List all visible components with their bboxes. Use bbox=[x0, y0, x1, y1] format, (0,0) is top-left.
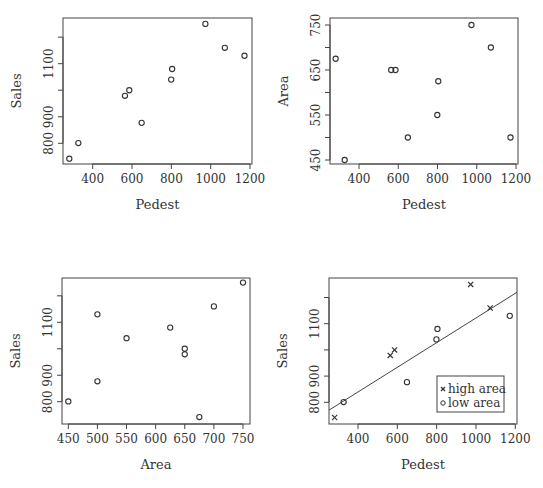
y-tick-label: 800 bbox=[42, 132, 56, 155]
data-point-circle bbox=[124, 336, 129, 341]
x-tick-label: 1200 bbox=[500, 432, 531, 446]
x-tick-label: 700 bbox=[202, 432, 225, 446]
data-point-circle bbox=[122, 93, 127, 98]
y-tick-label: 900 bbox=[42, 105, 56, 128]
panel-top-right: 40060080010001200450550650750PedestArea bbox=[276, 14, 531, 212]
data-point-circle bbox=[222, 45, 227, 50]
data-point-cross bbox=[468, 282, 473, 287]
data-point-circle bbox=[342, 157, 347, 162]
y-tick-label: 550 bbox=[309, 104, 323, 127]
y-axis-label: Sales bbox=[8, 333, 23, 368]
data-point-circle bbox=[240, 280, 245, 285]
data-point-circle bbox=[435, 112, 440, 117]
x-axis-label: Area bbox=[139, 457, 171, 472]
y-axis-label: Sales bbox=[9, 73, 24, 108]
data-point-circle bbox=[127, 88, 132, 93]
x-tick-label: 600 bbox=[387, 172, 410, 186]
data-point-circle bbox=[469, 22, 474, 27]
data-point-circle bbox=[139, 120, 144, 125]
data-point-circle bbox=[197, 414, 202, 419]
x-tick-label: 400 bbox=[347, 432, 370, 446]
y-tick-label: 800 bbox=[308, 391, 322, 414]
data-point-circle bbox=[508, 135, 513, 140]
x-tick-label: 800 bbox=[425, 432, 448, 446]
x-tick-label: 750 bbox=[232, 432, 255, 446]
data-point-circle bbox=[507, 313, 512, 318]
panel-top-left: 400600800100012008009001100PedestSales bbox=[9, 18, 265, 212]
data-point-circle bbox=[435, 326, 440, 331]
x-axis-label: Pedest bbox=[401, 457, 446, 472]
data-point-circle bbox=[203, 21, 208, 26]
y-axis-label: Sales bbox=[275, 333, 290, 368]
data-point-circle bbox=[182, 346, 187, 351]
x-axis-label: Pedest bbox=[402, 197, 447, 212]
panel-bottom-right: 400600800100012008009001100PedestSaleshi… bbox=[275, 278, 531, 472]
x-tick-label: 650 bbox=[173, 432, 196, 446]
x-tick-label: 400 bbox=[81, 172, 104, 186]
y-tick-label: 900 bbox=[41, 364, 55, 387]
data-point-circle bbox=[333, 56, 338, 61]
legend-high-area: high area bbox=[448, 382, 506, 396]
data-point-circle bbox=[242, 53, 247, 58]
data-point-circle bbox=[168, 325, 173, 330]
data-point-circle bbox=[76, 140, 81, 145]
plot-frame bbox=[330, 18, 518, 164]
x-tick-label: 600 bbox=[144, 432, 167, 446]
plot-frame bbox=[63, 18, 252, 164]
data-point-cross bbox=[388, 353, 393, 358]
x-tick-label: 800 bbox=[160, 172, 183, 186]
y-tick-label: 900 bbox=[308, 365, 322, 388]
x-tick-label: 500 bbox=[86, 432, 109, 446]
y-axis-label: Area bbox=[276, 75, 291, 107]
legend: high arealow area bbox=[437, 376, 506, 412]
y-tick-label: 1100 bbox=[41, 307, 55, 338]
data-point-cross bbox=[332, 415, 337, 420]
data-point-circle bbox=[95, 379, 100, 384]
x-tick-label: 1200 bbox=[501, 172, 532, 186]
data-point-circle bbox=[405, 135, 410, 140]
x-tick-label: 400 bbox=[348, 172, 371, 186]
plot-frame bbox=[62, 278, 250, 424]
data-point-circle bbox=[66, 399, 71, 404]
data-point-circle bbox=[436, 79, 441, 84]
scatterplot-matrix: 400600800100012008009001100PedestSales40… bbox=[0, 0, 543, 488]
data-point-circle bbox=[488, 45, 493, 50]
y-tick-label: 1100 bbox=[308, 308, 322, 339]
x-tick-label: 1200 bbox=[235, 172, 266, 186]
x-tick-label: 1000 bbox=[195, 172, 226, 186]
data-point-circle bbox=[169, 77, 174, 82]
x-tick-label: 1000 bbox=[461, 172, 492, 186]
x-tick-label: 450 bbox=[57, 432, 80, 446]
y-tick-label: 800 bbox=[41, 390, 55, 413]
data-point-circle bbox=[182, 352, 187, 357]
y-tick-label: 1100 bbox=[42, 48, 56, 79]
legend-low-area: low area bbox=[448, 396, 500, 410]
data-point-circle bbox=[170, 66, 175, 71]
x-axis-label: Pedest bbox=[136, 197, 181, 212]
panel-bottom-left: 4505005506006507007508009001100AreaSales bbox=[8, 278, 254, 472]
data-point-circle bbox=[95, 312, 100, 317]
y-tick-label: 650 bbox=[309, 59, 323, 82]
data-point-circle bbox=[404, 380, 409, 385]
y-tick-label: 750 bbox=[309, 14, 323, 37]
data-point-circle bbox=[67, 156, 72, 161]
x-tick-label: 600 bbox=[121, 172, 144, 186]
x-tick-label: 800 bbox=[426, 172, 449, 186]
x-tick-label: 550 bbox=[115, 432, 138, 446]
y-tick-label: 450 bbox=[309, 149, 323, 172]
data-point-cross bbox=[392, 347, 397, 352]
data-point-circle bbox=[211, 304, 216, 309]
x-tick-label: 1000 bbox=[461, 432, 492, 446]
x-tick-label: 600 bbox=[386, 432, 409, 446]
